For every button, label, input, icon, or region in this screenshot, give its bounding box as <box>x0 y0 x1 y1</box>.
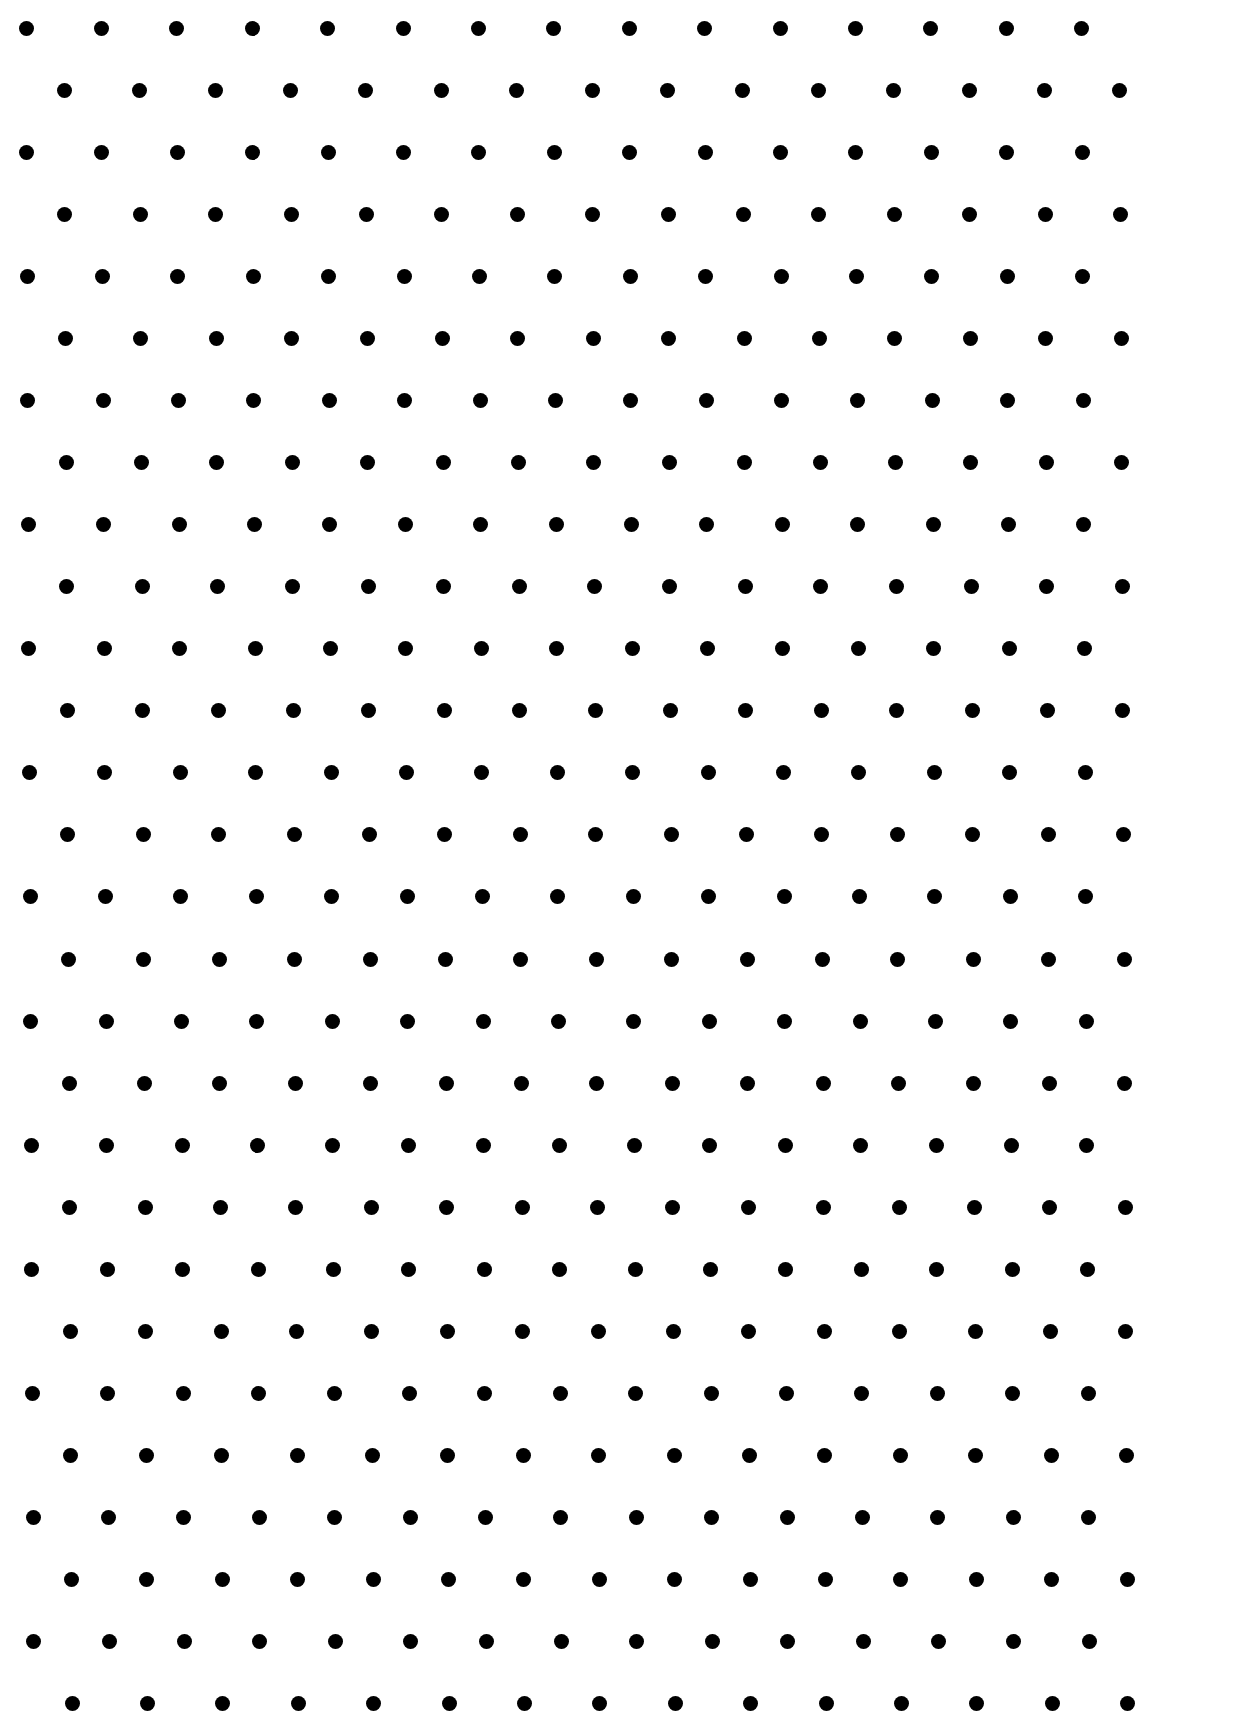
dot <box>664 952 679 967</box>
dot <box>139 1448 154 1463</box>
dot <box>25 1386 40 1401</box>
dot <box>288 1200 303 1215</box>
dot <box>477 1386 492 1401</box>
dot <box>1005 1262 1020 1277</box>
dot <box>364 1324 379 1339</box>
dot <box>930 1386 945 1401</box>
dot <box>814 703 829 718</box>
dot <box>1038 207 1053 222</box>
dot <box>366 1696 381 1711</box>
dot <box>515 1200 530 1215</box>
dot <box>60 703 75 718</box>
dot <box>968 1448 983 1463</box>
dot <box>741 1324 756 1339</box>
dot <box>361 703 376 718</box>
dot <box>962 207 977 222</box>
dot <box>962 83 977 98</box>
dot <box>1002 765 1017 780</box>
dot <box>550 889 565 904</box>
dot <box>365 1448 380 1463</box>
dot <box>892 1324 907 1339</box>
dot <box>516 1448 531 1463</box>
dot <box>1005 1386 1020 1401</box>
dot <box>851 765 866 780</box>
dot <box>398 641 413 656</box>
dot <box>1077 641 1092 656</box>
dot <box>290 1572 305 1587</box>
dot <box>138 1200 153 1215</box>
dot <box>473 393 488 408</box>
dot <box>887 207 902 222</box>
dot <box>397 393 412 408</box>
dot <box>624 517 639 532</box>
dot <box>853 1138 868 1153</box>
dot <box>58 331 73 346</box>
dot <box>819 1696 834 1711</box>
dot <box>251 1386 266 1401</box>
dot <box>211 703 226 718</box>
dot <box>778 1138 793 1153</box>
dot <box>1118 1200 1133 1215</box>
dot <box>396 21 411 36</box>
dot <box>436 579 451 594</box>
dot <box>969 1572 984 1587</box>
dot <box>551 1014 566 1029</box>
dot <box>625 641 640 656</box>
dot <box>661 207 676 222</box>
dot <box>510 207 525 222</box>
dot <box>697 21 712 36</box>
dot <box>403 1634 418 1649</box>
dot <box>19 21 34 36</box>
dot <box>701 765 716 780</box>
dot <box>924 145 939 160</box>
dot <box>138 1324 153 1339</box>
dot <box>549 517 564 532</box>
dot <box>440 1448 455 1463</box>
dot <box>100 1386 115 1401</box>
dot <box>321 145 336 160</box>
dot <box>963 455 978 470</box>
dot <box>215 1696 230 1711</box>
dot <box>132 83 147 98</box>
dot <box>547 145 562 160</box>
dot <box>252 1510 267 1525</box>
dot <box>967 1200 982 1215</box>
dot <box>1075 269 1090 284</box>
dot <box>702 1014 717 1029</box>
dot <box>1001 517 1016 532</box>
dot <box>94 145 109 160</box>
dot <box>1044 1572 1059 1587</box>
dot <box>703 1262 718 1277</box>
dot <box>209 331 224 346</box>
dot <box>102 1634 117 1649</box>
dot <box>177 1634 192 1649</box>
dot <box>965 827 980 842</box>
dot <box>23 889 38 904</box>
dot <box>97 641 112 656</box>
dot <box>363 1076 378 1091</box>
dot <box>361 579 376 594</box>
dot <box>1006 1510 1021 1525</box>
dot <box>248 641 263 656</box>
dot <box>698 145 713 160</box>
dot <box>176 1386 191 1401</box>
dot <box>403 1510 418 1525</box>
dot <box>705 1634 720 1649</box>
dot <box>890 827 905 842</box>
dot <box>517 1696 532 1711</box>
dot <box>212 1076 227 1091</box>
dot <box>1078 765 1093 780</box>
dot <box>211 827 226 842</box>
dot <box>515 1324 530 1339</box>
dot <box>1042 1200 1057 1215</box>
dot <box>552 1262 567 1277</box>
dot <box>1045 1696 1060 1711</box>
dot <box>546 21 561 36</box>
dot <box>855 1510 870 1525</box>
dot <box>208 83 223 98</box>
dot <box>736 207 751 222</box>
dot <box>171 393 186 408</box>
dot <box>667 1448 682 1463</box>
dot <box>397 269 412 284</box>
dot <box>358 83 373 98</box>
